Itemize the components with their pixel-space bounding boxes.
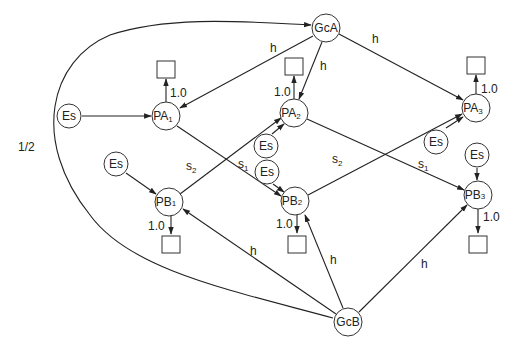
node-pb1: PB1 (155, 188, 183, 216)
node-es-pa3: Es (424, 130, 448, 154)
node-pa3: PA3 (462, 94, 490, 122)
edge-label-1-0: 1.0 (483, 210, 500, 224)
node-pb2: PB2 (281, 187, 309, 215)
node-es-pb3: Es (465, 143, 489, 167)
edge-label-s2: s2 (332, 152, 343, 168)
edge-label-h: h (270, 41, 277, 55)
edge-es-pb1 (126, 173, 156, 194)
node-gca: GcA (312, 14, 340, 42)
node-gcb: GcB (334, 308, 362, 336)
sink-box-pa3 (467, 57, 485, 74)
edge-label-s2: s2 (186, 159, 197, 175)
svg-text:Es: Es (429, 135, 443, 149)
edge-label-s1: s1 (418, 157, 429, 173)
graph-diagram: 1/2 h h h h h h s1 s2 s1 s2 1.0 1.0 1.0 … (0, 0, 514, 349)
edge-label-1-0: 1.0 (481, 82, 498, 96)
svg-text:Es: Es (109, 157, 123, 171)
svg-text:Es: Es (470, 148, 484, 162)
edge-label-h: h (320, 59, 327, 73)
edge-label-h: h (330, 253, 337, 267)
edge-es-pa3 (446, 117, 463, 128)
sink-box-pb3 (469, 236, 487, 253)
node-es-pa2: Es (254, 134, 278, 158)
svg-text:GcA: GcA (314, 21, 337, 35)
edge-gcb-pb2 (305, 215, 343, 308)
sink-box-pb1 (162, 236, 180, 253)
edge-label-h: h (372, 32, 379, 46)
svg-text:GcB: GcB (336, 315, 359, 329)
edge-label-1-0: 1.0 (148, 219, 165, 233)
node-es-pb2: Es (255, 160, 279, 184)
edge-label-half: 1/2 (18, 140, 35, 154)
svg-text:Es: Es (259, 139, 273, 153)
edge-label-1-0: 1.0 (274, 85, 291, 99)
node-es-pb1: Es (104, 152, 128, 176)
svg-text:Es: Es (260, 165, 274, 179)
edge-gcb-pb3 (359, 205, 467, 312)
node-pa2: PA2 (280, 99, 308, 127)
sink-box-pa2 (285, 58, 303, 75)
edge-es-pb2 (273, 184, 284, 192)
edge-label-s1: s1 (238, 157, 249, 173)
svg-text:Es: Es (62, 109, 76, 123)
edge-label-h: h (421, 257, 428, 271)
node-pa1: PA1 (152, 102, 180, 130)
edge-es-pa2 (272, 124, 284, 134)
node-es-pa1: Es (57, 104, 81, 128)
edge-label-1-0: 1.0 (170, 86, 187, 100)
sink-box-pb2 (288, 236, 306, 253)
node-pb3: PB3 (464, 181, 492, 209)
edge-label-1-0: 1.0 (276, 217, 293, 231)
edge-label-h: h (250, 244, 257, 258)
edge-gca-pa3 (339, 34, 463, 100)
sink-box-pa1 (157, 61, 175, 78)
